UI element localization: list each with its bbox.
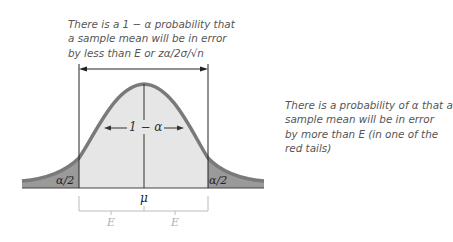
arrowhead-right-icon — [200, 67, 208, 72]
right-tail-label: α/2 — [209, 174, 227, 187]
arrowhead-left-icon — [79, 67, 87, 72]
margin-right-label: E — [171, 216, 179, 229]
left-tail-label: α/2 — [56, 174, 74, 187]
margin-left-label: E — [107, 216, 115, 229]
center-area-label: 1 − α — [127, 120, 164, 134]
mean-label: μ — [140, 191, 148, 205]
